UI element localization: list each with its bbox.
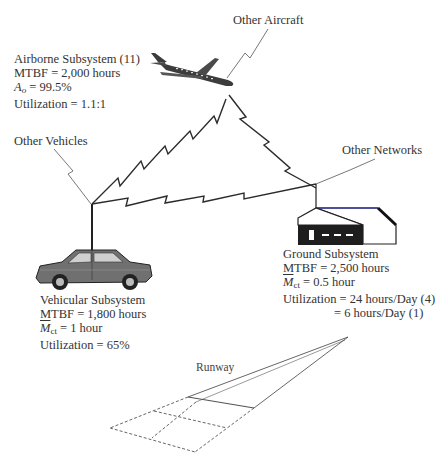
ao-symbol: A: [14, 80, 22, 94]
ground-mct: Mct = 0.5 hour: [283, 275, 435, 292]
runway-icon: [110, 337, 348, 452]
other-networks-label: Other Networks: [342, 143, 422, 157]
airborne-title: Airborne Subsystem (11): [14, 52, 140, 66]
airborne-subsystem-specs: Airborne Subsystem (11) MTBF = 2,000 hou…: [14, 52, 140, 111]
vehicular-mtbf: MTBF = 1,800 hours: [40, 307, 146, 321]
vehicular-subsystem-specs: Vehicular Subsystem MTBF = 1,800 hours M…: [40, 293, 146, 352]
link-aircraft-ground: [229, 95, 316, 188]
vehicular-utilization: Utilization = 65%: [40, 338, 146, 352]
ground-title: Ground Subsystem: [283, 247, 435, 261]
airplane-icon: [150, 53, 233, 86]
link-vehicle-ground: [92, 184, 316, 206]
airborne-mtbf: MTBF = 2,000 hours: [14, 66, 140, 80]
other-aircraft-label: Other Aircraft: [233, 13, 303, 27]
airborne-availability: Ao = 99.5%: [14, 80, 140, 97]
ground-mtbf: MTBF = 2,500 hours: [283, 261, 435, 275]
link-aircraft-vehicle: [92, 99, 226, 204]
ground-utilization-2: = 6 hours/Day (1): [283, 306, 435, 320]
ground-utilization-1: Utilization = 24 hours/Day (4): [283, 292, 435, 306]
other-vehicles-label: Other Vehicles: [14, 134, 88, 148]
pointer-other-vehicles: [54, 149, 91, 204]
car-icon: [36, 250, 152, 290]
mct-symbol: M: [283, 275, 293, 289]
airborne-utilization: Utilization = 1.1:1: [14, 97, 140, 111]
ground-subsystem-specs: Ground Subsystem MTBF = 2,500 hours Mct …: [283, 247, 435, 320]
building-icon: [298, 208, 396, 245]
mct-symbol: M: [40, 321, 50, 335]
pointer-other-networks: [316, 159, 375, 184]
mct-value: = 0.5 hour: [300, 275, 355, 289]
vehicular-mct: Mct = 1 hour: [40, 321, 146, 338]
pointer-other-aircraft: [227, 29, 268, 78]
vehicular-title: Vehicular Subsystem: [40, 293, 146, 307]
runway-label: Runway: [196, 360, 234, 374]
ao-value: = 99.5%: [26, 80, 72, 94]
mct-value: = 1 hour: [57, 321, 103, 335]
